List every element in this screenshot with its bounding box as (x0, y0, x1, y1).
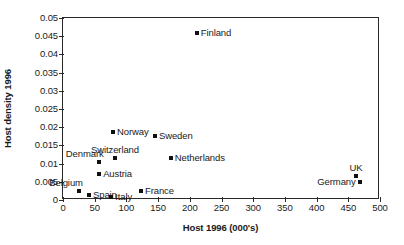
y-axis-tick (59, 145, 64, 146)
data-point-label: Belgium (49, 177, 83, 187)
x-axis-tick-label: 400 (309, 203, 325, 213)
y-axis-tick (59, 18, 64, 19)
y-axis-tick-label: 0.04 (40, 50, 58, 60)
y-axis-tick-label: 0.03 (40, 86, 58, 96)
y-axis-tick (59, 91, 64, 92)
data-point-label: Norway (117, 127, 149, 137)
x-axis-tick-label: 250 (214, 203, 230, 213)
data-point-label: Austria (103, 169, 132, 179)
y-axis-tick (59, 54, 64, 55)
data-point-label: UK (349, 162, 362, 172)
y-axis-tick (59, 73, 64, 74)
x-axis-tick-label: 100 (119, 203, 135, 213)
data-point (195, 31, 199, 35)
x-axis-tick-label: 50 (90, 203, 100, 213)
x-axis-tick-label: 500 (372, 203, 388, 213)
data-point (139, 189, 143, 193)
data-point (87, 193, 91, 197)
y-axis-tick (59, 109, 64, 110)
data-point-label: Finland (201, 28, 231, 38)
data-point (77, 189, 81, 193)
y-axis-tick-label: 0.045 (35, 31, 58, 41)
scatter-chart-figure: Host density 1996 00.0050.010.0150.020.0… (0, 0, 404, 245)
data-point-label: Germany (317, 177, 355, 187)
x-axis-tick-label: 450 (341, 203, 357, 213)
data-point-label: France (145, 186, 174, 196)
y-axis-tick-label: 0.035 (35, 68, 58, 78)
plot-area: 00.0050.010.0150.020.0250.030.0350.040.0… (62, 17, 379, 199)
data-point (113, 156, 117, 160)
y-axis-tick-label: 0.015 (35, 141, 58, 151)
x-axis-tick-label: 350 (277, 203, 293, 213)
data-point (358, 180, 362, 184)
data-point-label: Italy (115, 192, 132, 202)
data-point (97, 160, 101, 164)
data-point-label: Netherlands (175, 153, 225, 163)
y-axis-tick-label: 0.05 (40, 13, 58, 23)
y-axis-tick (59, 164, 64, 165)
x-axis-tick-label: 150 (150, 203, 166, 213)
y-axis-tick-label: 0.02 (40, 122, 58, 132)
data-point-label: Denmark (66, 149, 104, 159)
x-axis-tick-label: 0 (60, 203, 65, 213)
data-point-label: Spain (93, 190, 117, 200)
x-axis-title: Host 1996 (000's) (62, 222, 379, 233)
y-axis-tick-label: 0 (53, 195, 58, 205)
x-axis-tick-label: 200 (182, 203, 198, 213)
data-point (111, 130, 115, 134)
data-point (153, 134, 157, 138)
x-axis-tick-label: 300 (245, 203, 261, 213)
data-point-label: Sweden (159, 131, 193, 141)
y-axis-tick-label: 0.025 (35, 104, 58, 114)
data-point (169, 156, 173, 160)
data-point (109, 195, 113, 199)
y-axis-title: Host density 1996 (1, 17, 15, 199)
y-axis-tick-label: 0.01 (40, 159, 58, 169)
y-axis-tick (59, 127, 64, 128)
y-axis-tick (59, 36, 64, 37)
data-point (97, 172, 101, 176)
